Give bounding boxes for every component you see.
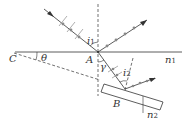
label-n2: n2 — [147, 110, 158, 120]
point-a-dot — [97, 51, 99, 53]
angle-theta-arc — [36, 52, 37, 60]
label-i1: i1 — [87, 36, 95, 46]
label-b: B — [113, 99, 120, 109]
label-theta: θ — [41, 53, 47, 63]
label-i2: i2 — [123, 68, 131, 78]
optics-diagram: C θ A i1 γ i2 B n1 n2 — [0, 0, 189, 129]
refracted-polarization-ticks — [108, 66, 122, 78]
incident-polarization-ticks — [59, 16, 83, 39]
reflected-arrow-icon — [140, 20, 147, 26]
second-reflected-polarization-dots — [132, 80, 149, 88]
glass-plate — [101, 84, 163, 110]
second-reflected-arrow-icon — [149, 78, 156, 82]
angle-i2-arc — [120, 81, 127, 82]
label-gamma: γ — [100, 62, 106, 72]
diagram-graphic — [0, 0, 189, 129]
label-a: A — [86, 55, 93, 65]
label-c: C — [9, 54, 17, 64]
label-n1: n1 — [165, 55, 176, 65]
reflected-ray — [98, 20, 147, 52]
